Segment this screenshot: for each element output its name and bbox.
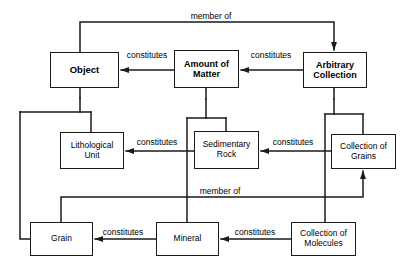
node-amount-of-matter-label: Amount of Matter [182,59,231,80]
edge-label-constitutes-sedimentary-grains: constitutes [273,137,314,147]
node-collection-of-molecules-label: Collection of Molecules [298,229,349,249]
edge-member-of-grain-collection [61,171,363,222]
node-sedimentary-rock-label: Sedimentary Rock [201,140,253,160]
node-grain[interactable]: Grain [30,222,93,256]
node-collection-of-grains[interactable]: Collection of Grains [331,134,396,169]
node-arbitrary-collection[interactable]: Arbitrary Collection [303,52,367,88]
node-mineral[interactable]: Mineral [156,222,219,256]
node-amount-of-matter[interactable]: Amount of Matter [174,50,239,88]
node-collection-of-molecules[interactable]: Collection of Molecules [291,222,356,256]
edge-label-member-of-top: member of [191,11,232,21]
node-object[interactable]: Object [50,52,119,88]
edge-label-constitutes-amount-arbitrary: constitutes [251,50,292,60]
edge-member-of-object-arbitrary [80,22,334,52]
node-collection-of-grains-label: Collection of Grains [338,142,389,162]
node-arbitrary-collection-label: Arbitrary Collection [311,60,359,81]
edge-label-constitutes-lithological-sedimentary: constitutes [137,137,178,147]
edge-label-constitutes-mineral-molecules: constitutes [235,227,276,237]
edge-label-constitutes-object-amount: constitutes [127,50,168,60]
node-lithological-unit[interactable]: Lithological Unit [60,132,124,169]
edge-gen-grain-riser [20,112,32,239]
node-grain-label: Grain [49,234,74,244]
node-object-label: Object [68,65,102,76]
node-mineral-label: Mineral [172,234,204,244]
node-sedimentary-rock[interactable]: Sedimentary Rock [194,131,259,169]
node-lithological-unit-label: Lithological Unit [69,141,116,161]
edge-label-constitutes-grain-mineral: constitutes [103,227,144,237]
diagram-canvas: Object Amount of Matter Arbitrary Collec… [0,0,411,273]
edge-label-member-of-bottom: member of [200,186,241,196]
